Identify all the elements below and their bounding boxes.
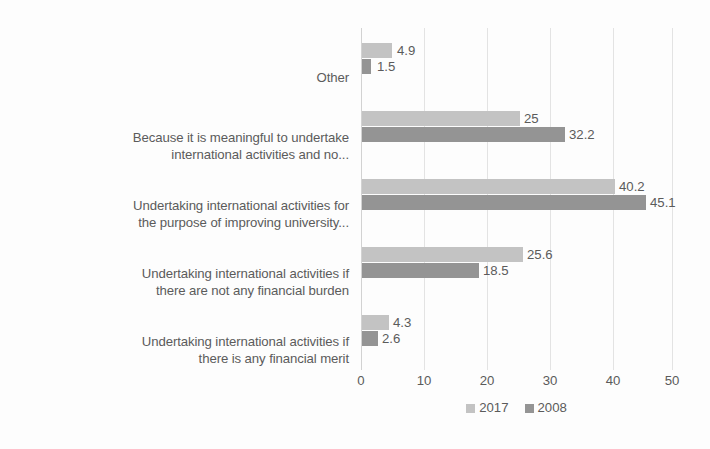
x-tick-0: 0 [357, 372, 364, 390]
bar-2017-improving-university [362, 179, 615, 194]
bar-value-2017-financial-merit: 4.3 [393, 315, 411, 330]
bar-value-2008-other: 1.5 [377, 59, 395, 74]
category-label-line: Other [0, 70, 349, 87]
category-label-line: Undertaking international activities for [0, 198, 349, 215]
bar-value-2017-improving-university: 40.2 [619, 179, 645, 194]
x-tick-10: 10 [417, 372, 432, 390]
category-label: Undertaking international activities for… [0, 198, 349, 231]
bar-2008-no-financial-burden [362, 263, 479, 278]
legend-label: 2017 [479, 401, 508, 415]
bar-chart: Undertaking international activities if … [0, 0, 710, 449]
category-label: Because it is meaningful to undertake in… [0, 130, 349, 163]
bar-value-2008-financial-merit: 2.6 [382, 331, 400, 346]
legend-item-2008[interactable]: 2008 [525, 401, 567, 415]
bar-value-2008-improving-university: 45.1 [650, 195, 676, 210]
x-tick-20: 20 [480, 372, 495, 390]
category-axis-labels: Undertaking international activities if … [0, 28, 355, 370]
category-label: Undertaking international activities if … [0, 266, 349, 299]
bar-2017-meaningful [362, 111, 520, 126]
category-label-line: Undertaking international activities if [0, 334, 349, 351]
category-label-line: international activities and no... [0, 147, 349, 164]
x-tick-30: 30 [543, 372, 558, 390]
x-tick-50: 50 [665, 372, 680, 390]
legend-label: 2008 [538, 401, 567, 415]
category-label-line: Undertaking international activities if [0, 266, 349, 283]
plot-area: 4.9 1.5 25 32.2 40.2 45.1 25.6 18.5 4.3 … [361, 28, 672, 370]
bar-value-2017-other: 4.9 [397, 43, 415, 58]
bar-2008-improving-university [362, 195, 646, 210]
bar-value-2008-meaningful: 32.2 [569, 127, 595, 142]
chart-legend: 2017 2008 [361, 398, 672, 418]
bar-2017-financial-merit [362, 315, 389, 330]
category-label-line: Because it is meaningful to undertake [0, 130, 349, 147]
category-label-line: there is any financial merit [0, 351, 349, 368]
x-tick-40: 40 [606, 372, 621, 390]
bar-2008-other [362, 59, 371, 74]
bar-value-2017-meaningful: 25 [524, 111, 539, 126]
bar-value-2008-no-financial-burden: 18.5 [483, 263, 509, 278]
legend-swatch-icon [525, 404, 534, 413]
x-axis-ticks: 0 10 20 30 40 50 [361, 372, 672, 394]
bar-2017-no-financial-burden [362, 247, 523, 262]
bar-value-2017-no-financial-burden: 25.6 [527, 247, 553, 262]
bar-2008-meaningful [362, 127, 565, 142]
legend-swatch-icon [466, 404, 475, 413]
category-label-line: there are not any financial burden [0, 283, 349, 300]
category-label: Other [0, 70, 349, 87]
category-label-line: the purpose of improving university... [0, 215, 349, 232]
bar-2008-financial-merit [362, 331, 378, 346]
category-label: Undertaking international activities if … [0, 334, 349, 367]
legend-item-2017[interactable]: 2017 [466, 401, 508, 415]
bar-2017-other [362, 43, 392, 58]
